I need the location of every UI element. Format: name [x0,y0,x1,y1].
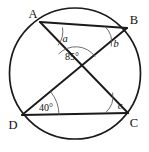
geometry-diagram: A B C D a b 85° 40° c [0,0,149,152]
vertex-label-D: D [8,118,17,132]
segment-diagonal-AC [40,22,128,113]
angle-label-b: b [113,38,118,49]
angle-label-85: 85° [65,51,79,62]
segment-chord-AB [40,22,127,28]
vertex-label-A: A [28,7,37,21]
vertex-label-B: B [130,13,138,27]
segment-chord-DC [22,113,128,115]
angle-label-c: c [118,100,123,111]
angle-label-a: a [62,33,67,44]
angle-label-40: 40° [39,102,53,113]
vertex-label-C: C [130,116,138,130]
geometry-canvas: A B C D a b 85° 40° c [0,0,149,152]
